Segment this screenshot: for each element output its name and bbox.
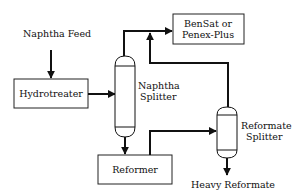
bensat-node: BenSat or Penex-Plus bbox=[173, 14, 244, 44]
bensat-label-2: Penex-Plus bbox=[182, 29, 234, 40]
hydrotreater-node: Hydrotreater bbox=[14, 79, 88, 108]
reformate-splitter-label-2: Splitter bbox=[246, 131, 283, 142]
naphtha-splitter-label-1: Naphtha bbox=[138, 80, 180, 91]
reformer-node: Reformer bbox=[98, 155, 172, 184]
process-flow-diagram: Naphtha Feed Hydrotreater Naphtha Splitt… bbox=[0, 0, 297, 195]
naphtha-feed-label: Naphtha Feed bbox=[23, 28, 91, 39]
bensat-label-1: BenSat or bbox=[184, 18, 232, 29]
reformer-to-reformate-splitter-arrow bbox=[150, 131, 216, 155]
naphtha-splitter-label-2: Splitter bbox=[140, 91, 177, 102]
heavy-reformate-label: Heavy Reformate bbox=[191, 179, 275, 190]
naphtha-splitter-column bbox=[115, 56, 135, 137]
hydrotreater-label: Hydrotreater bbox=[19, 88, 83, 99]
splitter-overhead-arrow bbox=[124, 31, 172, 56]
reformer-label: Reformer bbox=[112, 164, 158, 175]
reformate-splitter-label-1: Reformate bbox=[241, 120, 292, 131]
reformate-splitter-column bbox=[217, 107, 237, 158]
